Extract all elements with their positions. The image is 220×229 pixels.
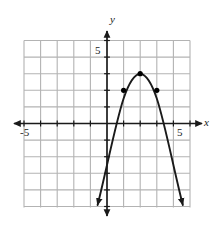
y-axis-tick-label-5: 5 [95, 45, 101, 56]
point-marker [154, 88, 159, 93]
x-axis-tick-label-negative-5: -5 [20, 127, 29, 138]
x-axis [14, 121, 202, 127]
y-axis-label: y [110, 14, 115, 25]
x-axis-tick-label-5: 5 [177, 127, 183, 138]
point-marker [121, 88, 126, 93]
point-marker-vertex [138, 71, 143, 76]
x-axis-label: x [204, 117, 209, 128]
graph-figure: y x 5 -5 5 [0, 0, 220, 229]
coordinate-plane [0, 0, 220, 229]
